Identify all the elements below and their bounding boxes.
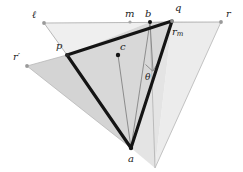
label-ell: ℓ: [32, 10, 36, 20]
figure-canvas: [0, 0, 243, 172]
point-p-dot: [65, 53, 69, 57]
point-rprime-dot: [25, 64, 29, 68]
point-b-dot: [148, 20, 152, 24]
label-r-m: rm: [172, 27, 183, 38]
point-ell-dot: [42, 21, 46, 25]
label-r: r: [226, 9, 231, 19]
label-q: q: [175, 3, 181, 13]
label-r-prime: r′: [13, 52, 20, 62]
label-m: m: [125, 9, 134, 19]
label-b: b: [145, 9, 151, 19]
point-a-dot: [129, 146, 133, 150]
label-c: c: [120, 42, 126, 52]
label-theta: θ: [145, 73, 150, 82]
label-p: p: [56, 41, 62, 51]
point-c-dot: [116, 53, 120, 57]
label-a: a: [128, 154, 134, 164]
label-r-m-subscript: m: [177, 30, 184, 38]
geometry-figure: ℓ m b q r r′ rm p c a θ: [0, 0, 243, 172]
point-m-dot: [128, 20, 131, 23]
point-r-dot: [219, 20, 223, 24]
point-q-dot: [170, 19, 174, 23]
